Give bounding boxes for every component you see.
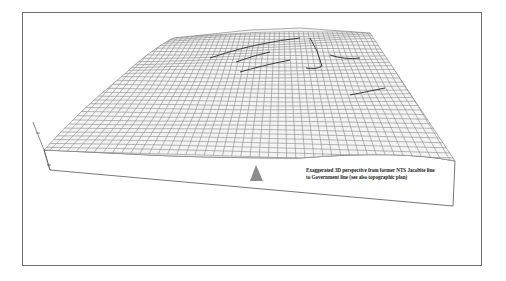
figure-caption: Exaggerated 3D perspective from former N… xyxy=(306,167,435,180)
caption-line-1: Exaggerated 3D perspective from former N… xyxy=(306,167,435,174)
terrain-mesh xyxy=(0,0,506,281)
caption-line-2: to Government line (see also topographic… xyxy=(306,174,435,181)
terrain-3d-perspective xyxy=(0,0,506,281)
